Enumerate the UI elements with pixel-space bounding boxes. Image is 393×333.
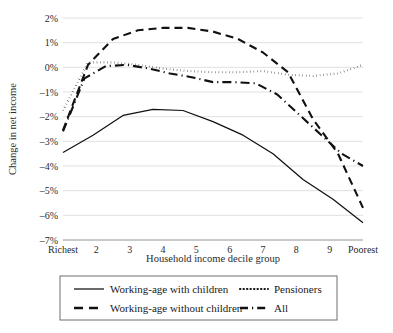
- x-tick-label: 2: [94, 244, 99, 255]
- legend-label-working-age-with-children: Working-age with children: [110, 283, 229, 295]
- legend-label-working-age-without-children: Working-age without children: [110, 302, 243, 314]
- chart-figure: 2%1%0%–1%–2%–3%–4%–5%–6%–7% Richest23456…: [0, 0, 393, 333]
- y-tick-label: –6%: [39, 210, 58, 221]
- y-axis-title: Change in net income: [7, 83, 18, 175]
- x-tick-label: Poorest: [348, 244, 378, 255]
- legend-label-pensioners: Pensioners: [274, 283, 322, 295]
- plot-area-background: [63, 18, 363, 240]
- x-tick-label: Richest: [48, 244, 78, 255]
- y-tick-label: 1%: [45, 37, 58, 48]
- y-tick-label: –5%: [39, 185, 58, 196]
- y-tick-label: –1%: [39, 87, 58, 98]
- x-tick-label: 3: [127, 244, 132, 255]
- y-tick-label: –4%: [39, 161, 58, 172]
- x-axis-title: Household income decile group: [146, 253, 280, 264]
- y-tick-label: –2%: [39, 111, 58, 122]
- y-tick-label: 2%: [45, 13, 58, 24]
- legend: Working-age with children Pensioners Wor…: [60, 276, 337, 320]
- y-axis-tick-labels: 2%1%0%–1%–2%–3%–4%–5%–6%–7%: [39, 13, 58, 246]
- line-chart: 2%1%0%–1%–2%–3%–4%–5%–6%–7% Richest23456…: [0, 0, 393, 333]
- legend-label-all: All: [274, 302, 288, 314]
- y-tick-label: –3%: [39, 136, 58, 147]
- x-tick-label: 9: [327, 244, 332, 255]
- x-tick-label: 8: [294, 244, 299, 255]
- y-tick-label: 0%: [45, 62, 58, 73]
